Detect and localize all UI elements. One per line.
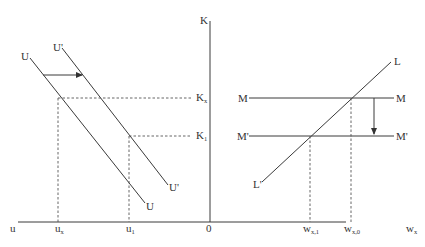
curve-m-prime-left-label: M' [237,130,249,142]
w-x0-tick-label: wx,0 [344,222,360,235]
curve-m-left-label: M [238,92,248,104]
curve-u [30,58,145,203]
curve-m-right-label: M [396,92,406,104]
k-axis-label: K [200,14,208,26]
curve-l-top-label: L [394,55,401,67]
w-x1-tick-label: wx,1 [303,222,319,235]
k-x-label: Kx [196,91,208,104]
origin-label: 0 [206,222,212,234]
curve-l [262,62,391,182]
u-x-tick-label: ux [55,222,65,235]
curve-u-bottom-label: U [146,200,154,212]
curve-l-bottom-label: L' [253,178,262,190]
curve-m-prime-right-label: M' [396,130,408,142]
curve-u-top-label: U [21,50,29,62]
curve-u-prime-top-label: U' [53,41,63,53]
economic-diagram: K u 0 U U U' U' Kx K1 ux u1 L L' M M M' … [0,0,425,247]
u-1-tick-label: u1 [126,222,135,235]
w-x-axis-label: wx [406,222,418,235]
k-1-label: K1 [196,129,207,142]
curve-u-prime-bottom-label: U' [169,181,179,193]
u-axis-label: u [10,222,16,234]
